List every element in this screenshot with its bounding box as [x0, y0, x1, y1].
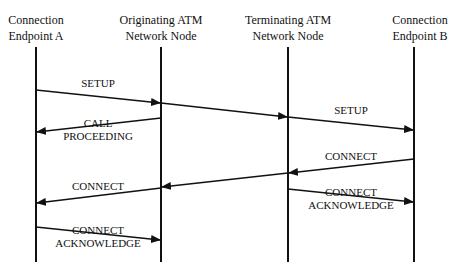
message-label-call-proceeding: CALL PROCEEDING — [63, 117, 133, 143]
message-label-connect-2: CONNECT — [72, 180, 124, 193]
participant-label-line2: Network Node — [120, 28, 203, 44]
message-label-text: ACKNOWLEDGE — [55, 237, 141, 250]
message-label-text: SETUP — [334, 104, 368, 117]
participant-originating-node: Originating ATM Network Node — [120, 12, 203, 44]
participant-terminating-node: Terminating ATM Network Node — [245, 12, 331, 44]
message-label-text: SETUP — [81, 77, 115, 90]
participant-label-line2: Endpoint B — [392, 28, 447, 44]
message-label-text: CONNECT — [308, 186, 394, 199]
message-label-setup-1: SETUP — [81, 77, 115, 90]
participant-label-line1: Terminating ATM — [245, 12, 331, 28]
message-label-text: ACKNOWLEDGE — [308, 199, 394, 212]
participant-label-line1: Originating ATM — [120, 12, 203, 28]
arrow-setup-origin-to-terminating — [161, 103, 287, 117]
message-label-text: CONNECT — [55, 224, 141, 237]
arrow-connect-terminating-to-origin — [162, 173, 288, 187]
message-label-text: PROCEEDING — [63, 130, 133, 143]
arrow-setup-a-to-origin — [36, 90, 160, 103]
participant-endpoint-a: Connection Endpoint A — [8, 12, 63, 44]
message-label-connect-ack-1: CONNECT ACKNOWLEDGE — [308, 186, 394, 212]
participant-label-line1: Connection — [392, 12, 447, 28]
participant-endpoint-b: Connection Endpoint B — [392, 12, 447, 44]
message-label-text: CONNECT — [72, 180, 124, 193]
message-label-connect-1: CONNECT — [325, 150, 377, 163]
message-label-text: CONNECT — [325, 150, 377, 163]
arrow-setup-terminating-to-b — [288, 117, 413, 130]
participant-label-line1: Connection — [8, 12, 63, 28]
participant-label-line2: Network Node — [245, 28, 331, 44]
message-label-text: CALL — [63, 117, 133, 130]
message-label-connect-ack-2: CONNECT ACKNOWLEDGE — [55, 224, 141, 250]
message-label-setup-2: SETUP — [334, 104, 368, 117]
participant-label-line2: Endpoint A — [8, 28, 63, 44]
